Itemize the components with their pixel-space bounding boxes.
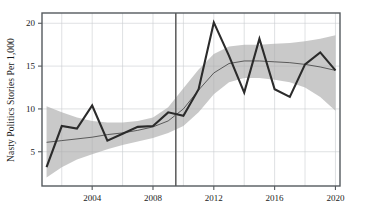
- nasty-politics-line-chart: 5101520 20042008201220162020 Nasty Polit…: [0, 0, 365, 220]
- chart-canvas: 5101520 20042008201220162020 Nasty Polit…: [0, 0, 365, 220]
- x-axis-ticks: 20042008201220162020: [83, 186, 345, 203]
- confidence-band: [47, 35, 336, 177]
- y-tick-label: 10: [26, 104, 36, 114]
- y-tick-label: 20: [26, 18, 36, 28]
- y-tick-label: 15: [26, 61, 36, 71]
- x-tick-label: 2008: [144, 193, 163, 203]
- y-axis-label: Nasty Politics Stories Per 1,000: [6, 38, 16, 162]
- x-tick-label: 2012: [205, 193, 223, 203]
- y-tick-label: 5: [31, 147, 36, 157]
- x-tick-label: 2016: [266, 193, 285, 203]
- x-tick-label: 2020: [326, 193, 345, 203]
- x-tick-label: 2004: [83, 193, 102, 203]
- y-axis-ticks: 5101520: [26, 18, 42, 156]
